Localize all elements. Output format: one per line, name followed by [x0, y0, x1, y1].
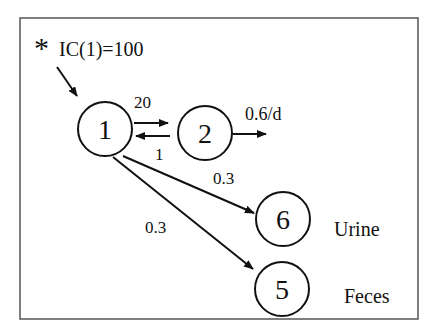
feces-label: Feces	[344, 285, 390, 307]
compartment-2-label: 2	[198, 118, 212, 149]
asterisk-marker: *	[34, 31, 49, 64]
flow-1-to-2-rate: 20	[134, 93, 151, 112]
compartment-1-label: 1	[98, 114, 112, 145]
compartment-1: 1	[78, 102, 132, 156]
compartment-6: 6	[256, 192, 310, 246]
urine-label: Urine	[334, 218, 380, 240]
ic-arrow-icon	[57, 67, 77, 96]
flow-2-to-1-rate: 1	[155, 145, 164, 164]
flow-1-to-6-arrow-icon	[123, 156, 254, 213]
compartment-5-label: 5	[275, 274, 289, 305]
compartment-6-label: 6	[276, 204, 290, 235]
initial-condition-label: IC(1)=100	[59, 38, 144, 61]
flow-1-to-6-rate: 0.3	[213, 169, 234, 188]
compartment-diagram: * IC(1)=100 1 2 6 Urine 5 Feces 20 1 0.6…	[0, 0, 435, 336]
compartment-2: 2	[178, 106, 232, 160]
flow-1-to-5-rate: 0.3	[145, 218, 166, 237]
compartment-5: 5	[255, 262, 309, 316]
flow-2-out-rate: 0.6/d	[245, 104, 282, 124]
